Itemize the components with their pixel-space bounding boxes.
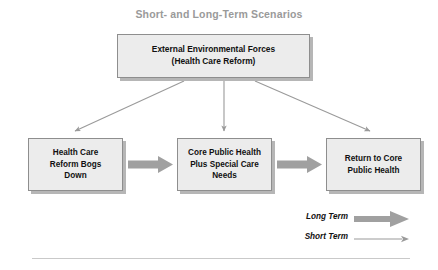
arrow-core-to-return <box>277 156 322 173</box>
arrow-external-to-return <box>255 81 370 131</box>
scenario-flow-diagram: Short- and Long-Term Scenarios <box>0 0 438 270</box>
legend-item-long-term: Long Term <box>262 209 412 229</box>
legend: Long Term Short Term <box>262 209 412 249</box>
arrow-bogs-to-core <box>128 156 173 173</box>
node-external-environmental-forces[interactable]: External Environmental Forces (Health Ca… <box>117 34 310 78</box>
node-label: Health Care Reform Bogs Down <box>46 147 105 182</box>
node-label: Core Public Health Plus Special Care Nee… <box>184 147 265 182</box>
node-health-care-reform-bogs-down[interactable]: Health Care Reform Bogs Down <box>28 138 123 191</box>
arrow-external-to-bogs <box>75 81 184 131</box>
node-label: Return to Core Public Health <box>341 153 406 176</box>
bottom-divider <box>32 258 410 259</box>
node-return-to-core-public-health[interactable]: Return to Core Public Health <box>326 138 421 191</box>
thin-arrow-icon <box>352 229 412 249</box>
legend-label-long-term: Long Term <box>306 212 348 221</box>
node-label: External Environmental Forces (Health Ca… <box>148 44 279 68</box>
legend-item-short-term: Short Term <box>262 229 412 249</box>
thick-arrow-icon <box>352 209 412 229</box>
node-core-public-health-plus-special-care-needs[interactable]: Core Public Health Plus Special Care Nee… <box>177 138 272 191</box>
figure-title: Short- and Long-Term Scenarios <box>0 8 438 20</box>
legend-label-short-term: Short Term <box>305 232 348 241</box>
